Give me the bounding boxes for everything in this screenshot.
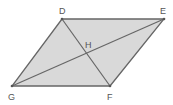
label-d: D — [59, 6, 66, 16]
vertex-g-dot — [11, 85, 14, 88]
parallelogram-diagram: D E F G H — [0, 0, 173, 105]
label-f: F — [107, 92, 113, 102]
vertex-d-dot — [61, 18, 64, 21]
label-g: G — [8, 92, 15, 102]
vertex-e-dot — [163, 18, 166, 21]
label-h: H — [85, 40, 92, 50]
vertex-f-dot — [109, 85, 112, 88]
label-e: E — [160, 6, 166, 16]
